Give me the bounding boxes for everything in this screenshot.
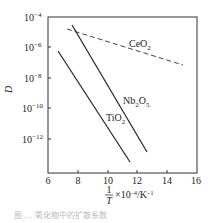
- svg-text:10−4: 10−4: [24, 11, 42, 23]
- label-tio2: TiO2: [106, 112, 126, 126]
- svg-text:16: 16: [191, 175, 201, 186]
- series-tio2: [58, 51, 130, 162]
- svg-text:1: 1: [107, 184, 112, 195]
- svg-text:10−8: 10−8: [24, 72, 42, 84]
- svg-text:10−10: 10−10: [22, 102, 43, 114]
- x-tick-labels: 6 8 10 12 14 16: [46, 175, 202, 186]
- label-ceo2: CeO2: [129, 38, 151, 52]
- svg-text:T: T: [106, 195, 113, 206]
- svg-text:12: 12: [132, 175, 142, 186]
- svg-text:10−12: 10−12: [22, 133, 43, 145]
- y-axis-label: D: [3, 85, 14, 94]
- x-axis-label: 1 T ×10−4/K−1: [105, 184, 153, 206]
- svg-text:6: 6: [46, 175, 51, 186]
- svg-text:14: 14: [162, 175, 172, 186]
- label-nb2o5: Nb2O5: [123, 95, 150, 109]
- svg-text:8: 8: [76, 175, 81, 186]
- chart: 10−4 10−6 10−8 10−10 10−12 D 6 8 10 12 1…: [0, 0, 213, 223]
- figure-caption: 图 … 氧化物中的扩散系数: [14, 209, 107, 220]
- svg-text:×10−4/K−1: ×10−4/K−1: [115, 189, 153, 200]
- svg-text:10−6: 10−6: [24, 41, 42, 53]
- y-tick-labels: 10−4 10−6 10−8 10−10 10−12: [22, 11, 43, 145]
